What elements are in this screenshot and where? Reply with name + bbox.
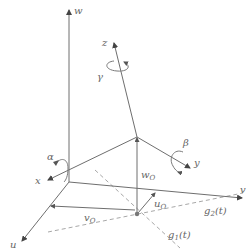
- alpha-label: α: [47, 151, 54, 162]
- v-axis-label: v: [240, 184, 246, 195]
- g1-label: g1(t): [168, 229, 191, 242]
- coordinate-frames-diagram: w u v z y x γ β α wO uO vO g2(t) g1(t): [0, 0, 250, 251]
- v-offset-label: vO: [84, 212, 96, 225]
- x-axis: [48, 137, 137, 180]
- z-axis-label: z: [101, 37, 108, 48]
- u-axis-label: u: [10, 239, 16, 250]
- u-offset-label: uO: [154, 198, 166, 211]
- beta-label: β: [182, 137, 189, 148]
- u-offset-arrow: [138, 193, 155, 213]
- y-axis-label: y: [193, 157, 200, 168]
- body-origin-point: [135, 212, 139, 216]
- x-axis-label: x: [35, 175, 41, 186]
- u-axis: [22, 182, 69, 241]
- g2-label: g2(t): [204, 205, 227, 218]
- z-axis: [114, 43, 137, 137]
- v-axis: [69, 182, 242, 198]
- beta-rotation-icon: [171, 151, 183, 172]
- gamma-rotation-icon: [107, 61, 128, 71]
- alpha-rotation-arrowhead: [53, 160, 59, 166]
- gamma-label: γ: [97, 71, 103, 82]
- w-offset-label: wO: [141, 169, 156, 182]
- v-offset-arrow: [51, 206, 135, 210]
- w-axis-label: w: [74, 5, 83, 16]
